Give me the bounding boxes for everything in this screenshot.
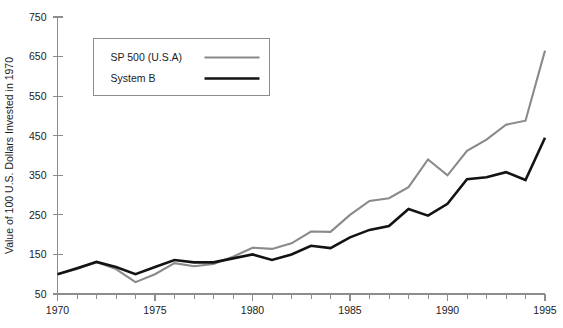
y-axis-tick-label: 150: [29, 248, 47, 260]
line-chart: 50150250350450550650750 1970197519801985…: [0, 0, 563, 328]
y-axis-tick-label: 50: [35, 288, 47, 300]
y-axis: 50150250350450550650750: [29, 11, 63, 300]
figure-caption: [8, 321, 563, 328]
x-axis-tick-label: 1990: [436, 304, 460, 316]
x-axis-tick-label: 1995: [533, 304, 557, 316]
x-axis-tick-label: 1975: [143, 304, 167, 316]
x-axis-tick-label: 1985: [338, 304, 362, 316]
legend-box: [94, 39, 270, 96]
y-axis-tick-label: 750: [29, 11, 47, 23]
x-axis-tick-label: 1980: [241, 304, 265, 316]
series-line: [58, 138, 546, 275]
y-axis-tick-label: 650: [29, 50, 47, 62]
y-axis-tick-label: 450: [29, 130, 47, 142]
chart-figure: 50150250350450550650750 1970197519801985…: [0, 0, 563, 328]
y-axis-tick-label: 350: [29, 169, 47, 181]
y-axis-tick-label: 250: [29, 209, 47, 221]
y-axis-title: Value of 100 U.S. Dollars Invested in 19…: [3, 57, 15, 254]
chart-legend[interactable]: SP 500 (U.S.A)System B: [94, 39, 270, 96]
y-axis-title-text: Value of 100 U.S. Dollars Invested in 19…: [3, 57, 15, 254]
x-axis: 197019751980198519901995: [46, 294, 557, 316]
x-axis-tick-label: 1970: [46, 304, 70, 316]
y-axis-tick-label: 550: [29, 90, 47, 102]
legend-entry-label[interactable]: SP 500 (U.S.A): [111, 51, 183, 63]
legend-entry-label[interactable]: System B: [111, 72, 156, 84]
